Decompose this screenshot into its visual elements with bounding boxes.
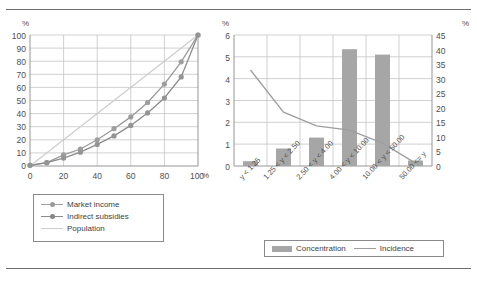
x-tick-40: 40 xyxy=(87,172,107,180)
legend-item-market-income[interactable]: Market income xyxy=(37,199,160,211)
legend-label-population: Population xyxy=(67,225,105,233)
legend-item-indirect-subsidies[interactable]: Indirect subsidies xyxy=(37,211,160,223)
right-chart-panel: % % 6 5 4 3 2 1 0 45 40 35 30 25 20 15 1… xyxy=(212,0,477,281)
right-chart-plot xyxy=(212,0,477,281)
figure-container: % 100 90 80 70 60 50 40 30 20 10 0 xyxy=(0,0,477,281)
concentration-swatch-icon xyxy=(272,246,292,252)
x-tick-0: 0 xyxy=(20,172,40,180)
left-chart-legend: Market income Indirect subsidies Populat… xyxy=(33,194,164,242)
x-tick-20: 20 xyxy=(54,172,74,180)
legend-label-market-income: Market income xyxy=(67,201,119,209)
left-chart-panel: % 100 90 80 70 60 50 40 30 20 10 0 xyxy=(0,0,212,281)
right-chart-legend: Concentration Incidence xyxy=(264,240,444,257)
legend-label-indirect-subsidies: Indirect subsidies xyxy=(67,213,129,221)
x-tick-80: 80 xyxy=(154,172,174,180)
x-tick-60: 60 xyxy=(121,172,141,180)
legend-item-population[interactable]: Population xyxy=(37,223,160,235)
left-chart-x-axis-unit: % xyxy=(202,172,209,180)
legend-label-incidence: Incidence xyxy=(380,245,414,253)
legend-label-concentration: Concentration xyxy=(296,245,346,253)
